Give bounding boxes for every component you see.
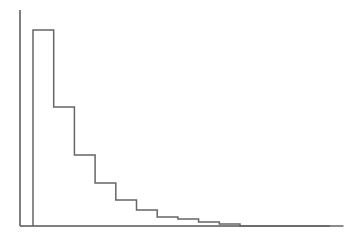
step-histogram-chart (0, 0, 351, 239)
histogram-step-line (33, 30, 344, 226)
